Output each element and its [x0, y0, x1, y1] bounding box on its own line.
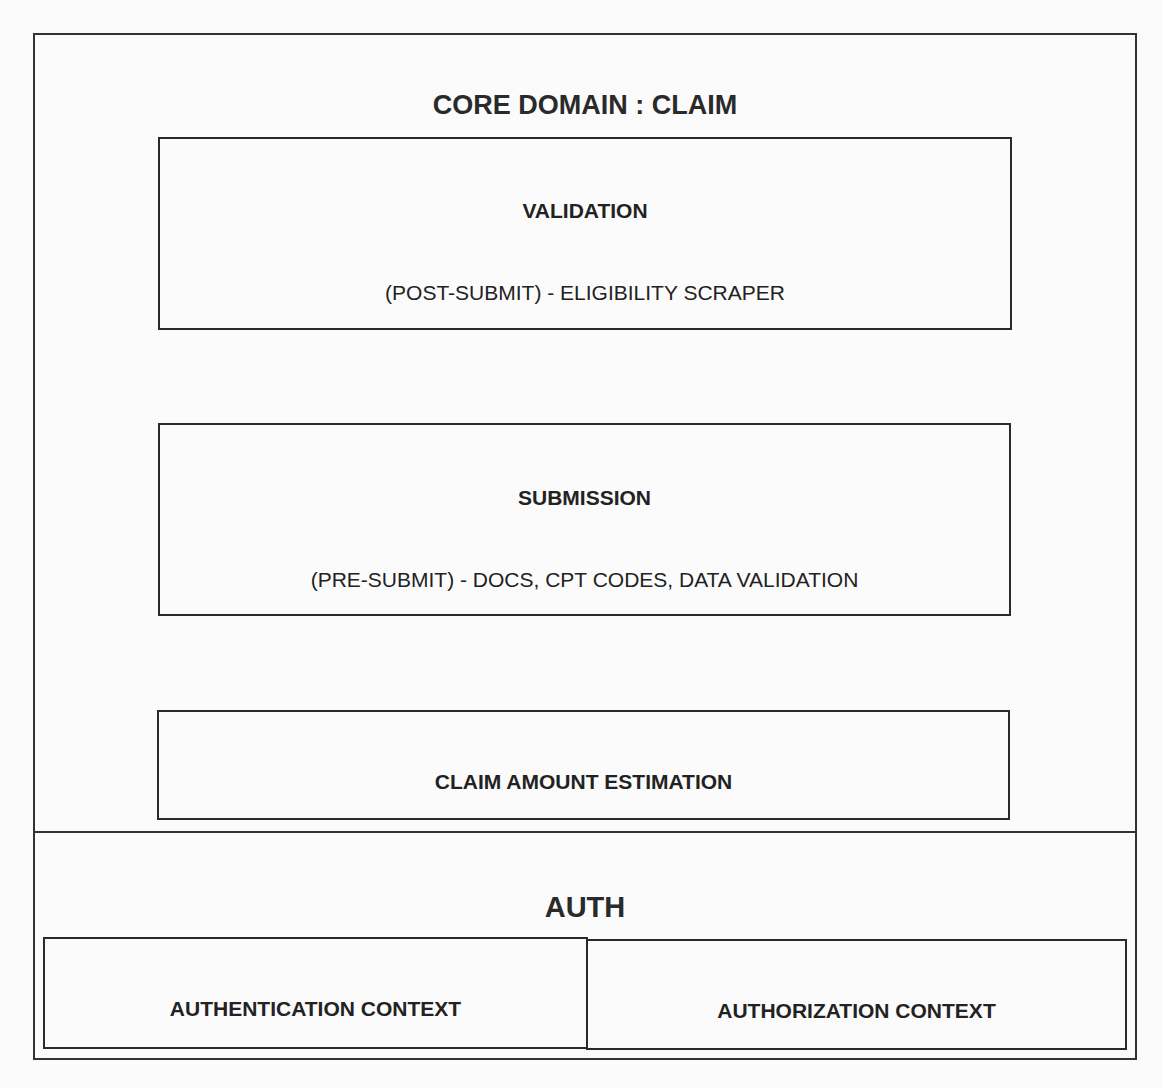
claim-amount-estimation-box: CLAIM AMOUNT ESTIMATION [157, 710, 1010, 820]
authentication-context-title: AUTHENTICATION CONTEXT [45, 997, 586, 1021]
authentication-context-box: AUTHENTICATION CONTEXT [43, 937, 588, 1049]
validation-box: VALIDATION (POST-SUBMIT) - ELIGIBILITY S… [158, 137, 1012, 330]
section-divider [33, 831, 1137, 833]
authorization-context-title: AUTHORIZATION CONTEXT [588, 999, 1125, 1023]
auth-title: AUTH [33, 891, 1137, 924]
validation-description: (POST-SUBMIT) - ELIGIBILITY SCRAPER [160, 281, 1010, 305]
submission-description: (PRE-SUBMIT) - DOCS, CPT CODES, DATA VAL… [160, 568, 1009, 592]
validation-title: VALIDATION [160, 199, 1010, 223]
submission-title: SUBMISSION [160, 486, 1009, 510]
claim-amount-estimation-title: CLAIM AMOUNT ESTIMATION [159, 770, 1008, 794]
authorization-context-box: AUTHORIZATION CONTEXT [586, 939, 1127, 1050]
core-domain-title: CORE DOMAIN : CLAIM [33, 90, 1137, 121]
submission-box: SUBMISSION (PRE-SUBMIT) - DOCS, CPT CODE… [158, 423, 1011, 616]
